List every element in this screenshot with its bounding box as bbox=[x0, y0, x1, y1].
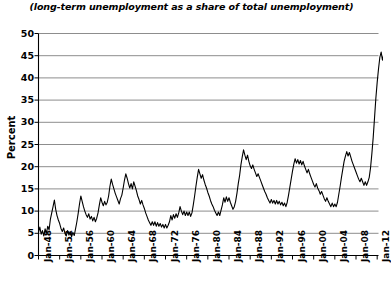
y-axis-tick-label: 40 bbox=[4, 73, 34, 74]
y-axis-tick-label-text: 25 bbox=[6, 140, 34, 150]
y-axis-tick-label: 0 bbox=[4, 251, 34, 252]
y-axis-tick-label: 35 bbox=[4, 95, 34, 96]
y-axis-tick-label: 15 bbox=[4, 184, 34, 185]
x-axis-tick-label: Jan-60 bbox=[106, 229, 116, 261]
y-axis-tick-label-text: 20 bbox=[6, 162, 34, 172]
y-axis-tick-label: 5 bbox=[4, 228, 34, 229]
y-axis-tick-label-text: 30 bbox=[6, 117, 34, 127]
y-axis-tick-label: 45 bbox=[4, 51, 34, 52]
x-axis-tick-label: Jan-52 bbox=[64, 229, 74, 261]
x-axis-tick-label: Jan-00 bbox=[318, 229, 328, 261]
x-axis-tick-label: Jan-76 bbox=[191, 229, 201, 261]
x-axis-tick-label: Jan-08 bbox=[360, 229, 370, 261]
y-axis-tick-label: 30 bbox=[4, 117, 34, 118]
y-axis-tick-label-text: 40 bbox=[6, 73, 34, 83]
x-axis-tick-label: Jan-88 bbox=[254, 229, 264, 261]
x-axis-tick-label: Jan-80 bbox=[212, 229, 222, 261]
x-axis-tick-label: Jan-56 bbox=[85, 229, 95, 261]
y-axis-tick-label-text: 5 bbox=[6, 228, 34, 238]
x-axis-tick-label: Jan-72 bbox=[170, 229, 180, 261]
x-axis-tick-label: Jan-92 bbox=[275, 229, 285, 261]
x-axis-tick-label: Jan-84 bbox=[233, 229, 243, 261]
y-axis-tick-label-text: 50 bbox=[6, 29, 34, 39]
y-axis-tick-label-text: 0 bbox=[6, 251, 34, 261]
y-axis-tick-label-text: 45 bbox=[6, 51, 34, 61]
x-axis-tick-label: Jan-04 bbox=[339, 229, 349, 261]
y-axis-tick-label-text: 10 bbox=[6, 206, 34, 216]
y-axis-tick-label-text: 35 bbox=[6, 95, 34, 105]
x-axis-tick-label: Jan-68 bbox=[148, 229, 158, 261]
chart-title: (long-term unemployment as a share of to… bbox=[0, 1, 383, 12]
y-axis-tick-label-text: 15 bbox=[6, 184, 34, 194]
y-axis-tick-label: 10 bbox=[4, 206, 34, 207]
x-axis-tick-label: Jan-96 bbox=[297, 229, 307, 261]
y-axis-tick-label: 25 bbox=[4, 140, 34, 141]
y-axis-tick-label: 20 bbox=[4, 162, 34, 163]
y-axis-tick-label: 50 bbox=[4, 29, 34, 30]
x-axis-tick-label: Jan-12 bbox=[381, 229, 391, 261]
x-axis-tick-label: Jan-48 bbox=[43, 229, 53, 261]
x-axis-tick-label: Jan-64 bbox=[127, 229, 137, 261]
y-axis-ticks bbox=[35, 34, 39, 256]
gridlines bbox=[39, 34, 379, 234]
